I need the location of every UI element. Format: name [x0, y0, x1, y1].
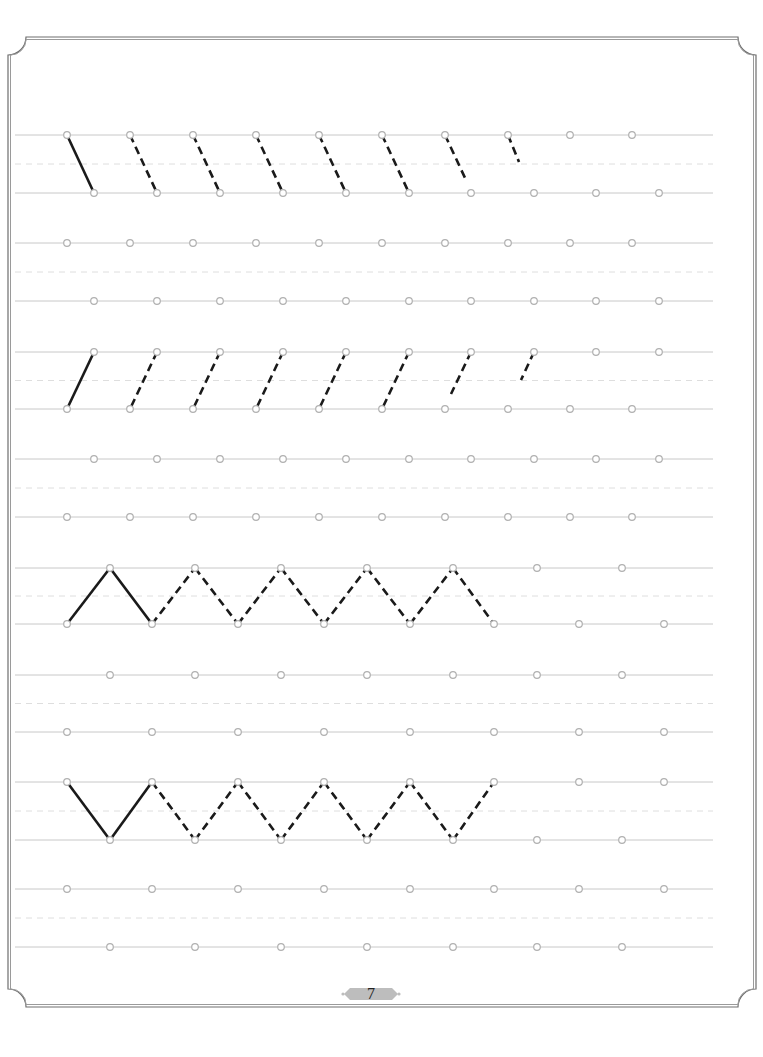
anchor-dot [127, 406, 134, 413]
anchor-dot [235, 886, 242, 893]
anchor-dot [149, 779, 156, 786]
anchor-dot [64, 406, 71, 413]
anchor-dot [379, 240, 386, 247]
anchor-dot [531, 190, 538, 197]
anchor-dot [661, 729, 668, 736]
anchor-dot [505, 132, 512, 139]
anchor-dot [235, 621, 242, 628]
anchor-dot [107, 837, 114, 844]
page-number: 7 [340, 983, 402, 1005]
anchor-dot [64, 729, 71, 736]
page-frame [8, 37, 756, 1007]
anchor-dot [64, 621, 71, 628]
anchor-dot [127, 132, 134, 139]
anchor-dot [235, 729, 242, 736]
anchor-dot [567, 132, 574, 139]
anchor-dot [442, 240, 449, 247]
anchor-dot [278, 944, 285, 951]
anchor-dot [531, 298, 538, 305]
anchor-dot [321, 729, 328, 736]
anchor-dot [149, 886, 156, 893]
anchor-dot [576, 621, 583, 628]
anchor-dot [619, 944, 626, 951]
anchor-dot [190, 132, 197, 139]
anchor-dot [593, 456, 600, 463]
anchor-dot [64, 514, 71, 521]
anchor-dot [364, 672, 371, 679]
anchor-dot [253, 514, 260, 521]
anchor-dot [442, 132, 449, 139]
anchor-dot [576, 886, 583, 893]
anchor-dot [149, 729, 156, 736]
anchor-dot [107, 672, 114, 679]
anchor-dot [91, 456, 98, 463]
anchor-dot [190, 514, 197, 521]
page-number-text: 7 [340, 983, 402, 1005]
anchor-dot [316, 132, 323, 139]
anchor-dot [407, 621, 414, 628]
anchor-dot [364, 565, 371, 572]
anchor-dot [534, 672, 541, 679]
anchor-dot [534, 565, 541, 572]
anchor-dot [192, 944, 199, 951]
anchor-dot [64, 779, 71, 786]
anchor-dot [91, 349, 98, 356]
anchor-dot [217, 349, 224, 356]
anchor-dot [661, 886, 668, 893]
anchor-dot [619, 565, 626, 572]
anchor-dot [379, 132, 386, 139]
anchor-dot [629, 406, 636, 413]
anchor-dot [107, 944, 114, 951]
anchor-dot [278, 837, 285, 844]
anchor-dot [661, 621, 668, 628]
anchor-dot [407, 779, 414, 786]
anchor-dot [491, 779, 498, 786]
anchor-dot [576, 729, 583, 736]
anchor-dot [406, 349, 413, 356]
anchor-dot [253, 240, 260, 247]
anchor-dot [656, 456, 663, 463]
anchor-dot [629, 132, 636, 139]
anchor-dot [91, 190, 98, 197]
anchor-dot [154, 298, 161, 305]
anchor-dot [343, 349, 350, 356]
anchor-dot [316, 240, 323, 247]
anchor-dot [567, 240, 574, 247]
anchor-dot [280, 349, 287, 356]
anchor-dot [576, 779, 583, 786]
anchor-dot [127, 240, 134, 247]
anchor-dot [91, 298, 98, 305]
anchor-dot [468, 190, 475, 197]
anchor-dot [316, 406, 323, 413]
anchor-dot [450, 837, 457, 844]
anchor-dot [217, 456, 224, 463]
anchor-dot [343, 190, 350, 197]
anchor-dot [278, 672, 285, 679]
anchor-dot [450, 944, 457, 951]
anchor-dot [619, 837, 626, 844]
anchor-dot [321, 621, 328, 628]
anchor-dot [656, 349, 663, 356]
anchor-dot [450, 672, 457, 679]
frame-outer [8, 37, 756, 1007]
anchor-dot [468, 456, 475, 463]
anchor-dot [629, 514, 636, 521]
anchor-dot [235, 779, 242, 786]
anchor-dot [531, 456, 538, 463]
anchor-dot [468, 349, 475, 356]
anchor-dot [149, 621, 156, 628]
anchor-dot [406, 298, 413, 305]
anchor-dot [190, 240, 197, 247]
anchor-dot [280, 456, 287, 463]
anchor-dot [656, 190, 663, 197]
anchor-dot [321, 886, 328, 893]
anchor-dot [253, 132, 260, 139]
anchor-dot [491, 621, 498, 628]
anchor-dot [567, 514, 574, 521]
anchor-dot [343, 456, 350, 463]
anchor-dot [217, 190, 224, 197]
anchor-dot [505, 240, 512, 247]
anchor-dot [64, 886, 71, 893]
anchor-dot [64, 240, 71, 247]
anchor-dot [154, 349, 161, 356]
